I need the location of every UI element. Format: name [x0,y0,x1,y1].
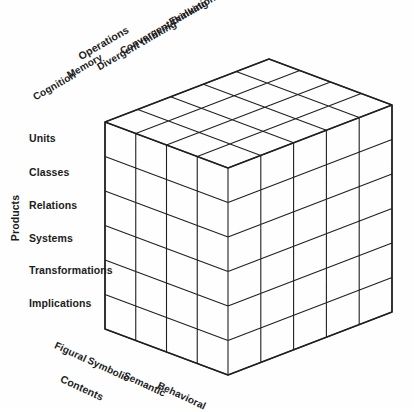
products-category-transformations: Transformations [29,265,113,276]
cube-grid-lines [105,59,392,375]
axis-title-products: Products [10,195,21,241]
products-category-classes: Classes [29,167,69,178]
products-category-implications: Implications [29,298,91,309]
products-category-relations: Relations [29,200,77,211]
products-category-units: Units [29,133,56,144]
products-category-systems: Systems [29,233,73,244]
cube-outline [105,59,392,375]
